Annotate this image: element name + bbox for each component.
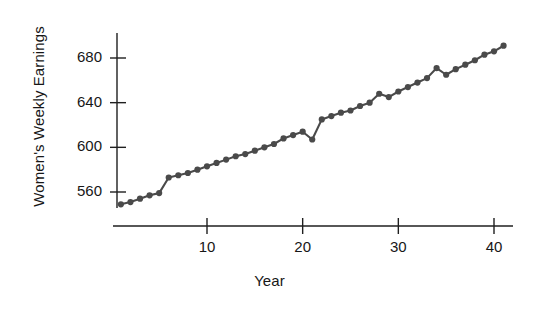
data-point-marker — [213, 160, 219, 166]
x-axis-title: Year — [0, 272, 539, 289]
data-point-marker — [472, 57, 478, 63]
data-point-marker — [386, 94, 392, 100]
chart-axes — [113, 33, 513, 226]
data-point-marker — [338, 110, 344, 116]
x-tick-label: 10 — [187, 238, 227, 255]
data-point-marker — [357, 103, 363, 109]
data-point-marker — [376, 91, 382, 97]
data-point-marker — [242, 151, 248, 157]
data-point-marker — [156, 190, 162, 196]
data-point-marker — [309, 136, 315, 142]
data-point-marker — [185, 170, 191, 176]
data-point-marker — [118, 201, 124, 207]
data-point-marker — [434, 65, 440, 71]
y-tick-label: 640 — [56, 93, 102, 110]
data-point-marker — [271, 141, 277, 147]
x-tick-label: 20 — [283, 238, 323, 255]
data-point-marker — [347, 107, 353, 113]
data-point-marker — [300, 129, 306, 135]
data-point-marker — [500, 43, 506, 49]
data-point-markers — [118, 43, 507, 208]
x-tick-label: 40 — [474, 238, 514, 255]
data-point-marker — [127, 199, 133, 205]
data-point-marker — [424, 75, 430, 81]
data-point-marker — [395, 88, 401, 94]
x-tick-label: 30 — [378, 238, 418, 255]
data-point-marker — [261, 144, 267, 150]
y-tick-label: 560 — [56, 182, 102, 199]
data-point-marker — [319, 116, 325, 122]
data-point-marker — [453, 66, 459, 72]
data-point-marker — [328, 113, 334, 119]
chart-container: Women's Weekly Earnings Year 68064060056… — [0, 0, 539, 318]
data-point-marker — [280, 135, 286, 141]
y-axis-title: Women's Weekly Earnings — [30, 5, 47, 229]
y-axis-ticks — [110, 58, 126, 192]
data-point-marker — [137, 196, 143, 202]
data-point-marker — [204, 163, 210, 169]
data-point-marker — [175, 172, 181, 178]
data-point-marker — [290, 132, 296, 138]
y-tick-label: 680 — [56, 48, 102, 65]
data-point-marker — [147, 192, 153, 198]
data-point-marker — [223, 157, 229, 163]
data-line-path — [121, 46, 504, 205]
data-point-marker — [462, 62, 468, 68]
data-point-marker — [194, 167, 200, 173]
data-point-marker — [481, 52, 487, 58]
data-point-marker — [367, 100, 373, 106]
data-point-marker — [414, 79, 420, 85]
data-point-marker — [405, 84, 411, 90]
data-point-marker — [443, 72, 449, 78]
data-point-marker — [252, 148, 258, 154]
data-point-marker — [491, 48, 497, 54]
y-tick-label: 600 — [56, 137, 102, 154]
data-series-group — [118, 43, 507, 208]
data-point-marker — [166, 174, 172, 180]
data-point-marker — [233, 153, 239, 159]
